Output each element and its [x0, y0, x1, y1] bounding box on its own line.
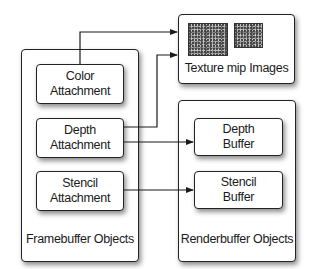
connection-lines [0, 0, 315, 269]
arrow-depth-to-texture [124, 55, 177, 127]
arrow-color-to-texture [80, 32, 177, 64]
